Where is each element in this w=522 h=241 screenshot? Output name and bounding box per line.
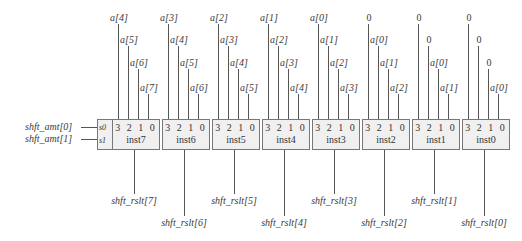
input-label: a[4]: [170, 35, 188, 45]
input-label: a[1]: [320, 35, 338, 45]
input-label: a[2]: [210, 13, 228, 23]
output-wire: [384, 150, 385, 216]
input-label: a[3]: [340, 83, 358, 93]
select-label-s0: shft_amt[0]: [25, 122, 72, 132]
mux-block-inst5: 3 2 1 0inst5: [212, 119, 260, 150]
output-wire: [434, 150, 435, 194]
port-s0: s0: [99, 124, 106, 132]
instance-name: inst3: [313, 135, 359, 145]
input-wire: [318, 24, 319, 119]
input-label: a[3]: [220, 35, 238, 45]
mux-block-inst3: 3 2 1 0inst3: [312, 119, 360, 150]
input-wire: [148, 94, 149, 119]
instance-name: inst2: [363, 135, 409, 145]
output-label: shft_rslt[6]: [161, 218, 207, 228]
input-label: 0: [427, 35, 432, 45]
input-wire: [168, 24, 169, 119]
input-label: a[4]: [230, 58, 248, 68]
input-wire: [298, 94, 299, 119]
instance-name: inst7: [113, 135, 159, 145]
input-label: a[5]: [180, 58, 198, 68]
input-wire: [398, 94, 399, 119]
input-label: a[2]: [390, 83, 408, 93]
port-numbers: 3 2 1 0: [413, 123, 459, 133]
output-wire: [184, 150, 185, 216]
instance-name: inst1: [413, 135, 459, 145]
input-label: 0: [367, 13, 372, 23]
input-label: a[0]: [490, 83, 508, 93]
port-numbers: 3 2 1 0: [113, 123, 159, 133]
input-label: a[1]: [260, 13, 278, 23]
input-label: a[5]: [120, 35, 138, 45]
input-wire: [478, 46, 479, 119]
output-wire: [334, 150, 335, 194]
input-wire: [338, 69, 339, 119]
input-wire: [378, 46, 379, 119]
input-label: a[5]: [240, 83, 258, 93]
output-label: shft_rslt[2]: [361, 218, 407, 228]
port-numbers: 3 2 1 0: [213, 123, 259, 133]
select-wire-s0: [81, 127, 98, 128]
input-label: a[6]: [190, 83, 208, 93]
input-wire: [468, 24, 469, 119]
output-label: shft_rslt[7]: [111, 196, 157, 206]
select-label-s1: shft_amt[1]: [25, 134, 72, 144]
port-numbers: 3 2 1 0: [263, 123, 309, 133]
output-wire: [234, 150, 235, 194]
input-wire: [438, 69, 439, 119]
input-label: a[2]: [330, 58, 348, 68]
select-wire-s1: [81, 139, 98, 140]
input-label: 0: [487, 58, 492, 68]
input-wire: [388, 69, 389, 119]
input-label: a[3]: [280, 58, 298, 68]
port-numbers: 3 2 1 0: [163, 123, 209, 133]
mux-block-inst4: 3 2 1 0inst4: [262, 119, 310, 150]
output-label: shft_rslt[5]: [211, 196, 257, 206]
output-wire: [134, 150, 135, 194]
input-label: a[0]: [310, 13, 328, 23]
output-label: shft_rslt[0]: [461, 218, 507, 228]
input-label: 0: [417, 13, 422, 23]
input-wire: [218, 24, 219, 119]
input-wire: [428, 46, 429, 119]
output-label: shft_rslt[3]: [311, 196, 357, 206]
input-wire: [128, 46, 129, 119]
port-numbers: 3 2 1 0: [313, 123, 359, 133]
input-label: a[1]: [440, 83, 458, 93]
input-label: a[3]: [160, 13, 178, 23]
input-wire: [228, 46, 229, 119]
instance-name: inst0: [463, 135, 509, 145]
input-label: a[2]: [270, 35, 288, 45]
input-wire: [368, 24, 369, 119]
instance-name: inst6: [163, 135, 209, 145]
input-wire: [118, 24, 119, 119]
input-label: a[1]: [380, 58, 398, 68]
input-wire: [248, 94, 249, 119]
input-label: a[6]: [130, 58, 148, 68]
output-label: shft_rslt[1]: [411, 196, 457, 206]
input-wire: [238, 69, 239, 119]
input-wire: [488, 69, 489, 119]
input-wire: [198, 94, 199, 119]
input-wire: [498, 94, 499, 119]
input-wire: [278, 46, 279, 119]
instance-name: inst5: [213, 135, 259, 145]
mux-block-inst1: 3 2 1 0inst1: [412, 119, 460, 150]
input-label: a[7]: [140, 83, 158, 93]
input-wire: [348, 94, 349, 119]
input-wire: [448, 94, 449, 119]
input-label: a[4]: [110, 13, 128, 23]
input-wire: [138, 69, 139, 119]
input-wire: [178, 46, 179, 119]
port-numbers: 3 2 1 0: [363, 123, 409, 133]
input-label: 0: [477, 35, 482, 45]
input-label: a[4]: [290, 83, 308, 93]
input-label: a[0]: [430, 58, 448, 68]
input-wire: [418, 24, 419, 119]
input-label: a[0]: [370, 35, 388, 45]
input-wire: [328, 46, 329, 119]
select-port-block: s0 s1: [97, 119, 112, 150]
instance-name: inst4: [263, 135, 309, 145]
mux-block-inst0: 3 2 1 0inst0: [462, 119, 510, 150]
mux-diagram: shft_amt[0] shft_amt[1] s0 s1 a[4]a[5]a[…: [0, 0, 522, 241]
